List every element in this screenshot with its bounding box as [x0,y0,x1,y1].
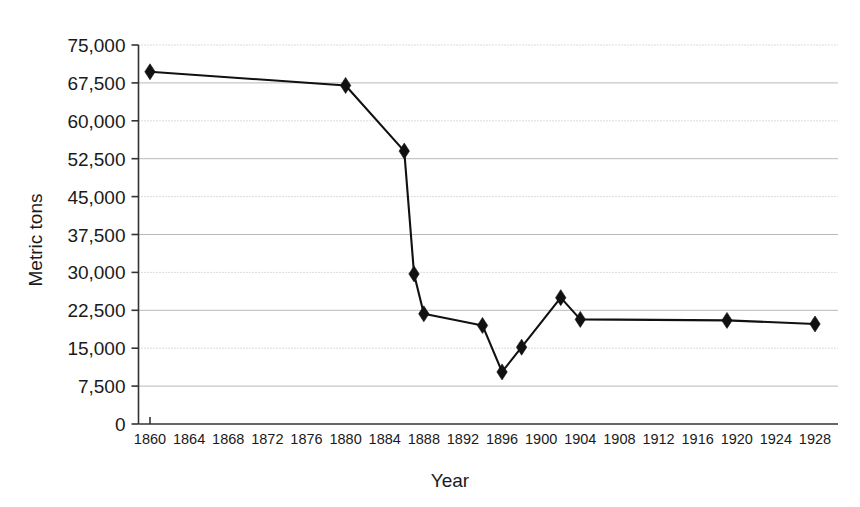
y-tick-label: 37,500 [67,225,125,246]
x-tick-label: 1880 [329,431,361,447]
x-tick-label: 1860 [134,431,166,447]
line-chart: 07,50015,00022,50030,00037,50045,00052,5… [0,0,860,507]
x-axis-title: Year [431,470,470,491]
y-tick-label: 7,500 [78,376,126,397]
x-tick-label: 1924 [760,431,792,447]
chart-container: 07,50015,00022,50030,00037,50045,00052,5… [0,0,860,507]
y-tick-label: 45,000 [67,187,125,208]
x-tick-label: 1888 [408,431,440,447]
x-tick-label: 1896 [486,431,518,447]
x-tick-label: 1920 [721,431,753,447]
x-tick-label: 1912 [642,431,674,447]
x-tick-label: 1868 [212,431,244,447]
y-tick-label: 75,000 [67,35,125,56]
y-tick-label: 15,000 [67,338,125,359]
x-tick-label: 1892 [447,431,479,447]
y-tick-label: 0 [115,414,126,435]
x-tick-label: 1884 [369,431,401,447]
y-axis-title: Metric tons [25,194,46,287]
x-tick-label: 1900 [525,431,557,447]
x-tick-label: 1876 [290,431,322,447]
y-tick-label: 30,000 [67,262,125,283]
x-tick-label: 1916 [682,431,714,447]
x-tick-label: 1872 [251,431,283,447]
y-tick-label: 67,500 [67,73,125,94]
y-tick-label: 52,500 [67,149,125,170]
x-tick-label: 1928 [799,431,831,447]
x-tick-label: 1864 [173,431,205,447]
x-tick-label: 1904 [564,431,596,447]
x-tick-label: 1908 [603,431,635,447]
y-tick-label: 22,500 [67,300,125,321]
y-tick-label: 60,000 [67,111,125,132]
